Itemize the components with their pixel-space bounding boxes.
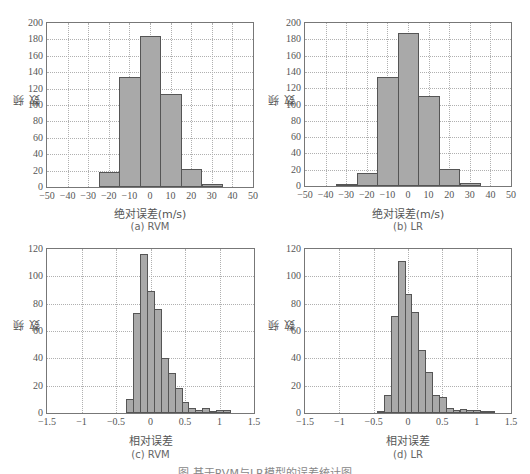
y-tick-label: 20 bbox=[17, 166, 43, 176]
y-tick-label: 20 bbox=[275, 165, 301, 175]
plot-area bbox=[46, 22, 254, 188]
histogram-bar bbox=[377, 77, 399, 186]
histogram-bar bbox=[398, 33, 420, 186]
y-tick-label: 80 bbox=[17, 116, 43, 126]
y-tick-label: 180 bbox=[275, 34, 301, 44]
histogram-bar bbox=[439, 169, 461, 186]
x-tick-label: 0.5 bbox=[427, 417, 457, 427]
x-tick-label: −0.5 bbox=[101, 417, 131, 427]
plot-area bbox=[46, 248, 255, 414]
histogram-bar bbox=[99, 172, 121, 187]
x-tick-label: 1.5 bbox=[239, 417, 269, 427]
subcaption: (d) LR bbox=[304, 449, 512, 460]
y-tick-label: 120 bbox=[17, 244, 43, 254]
y-tick-label: 120 bbox=[17, 84, 43, 94]
histogram-bar bbox=[336, 184, 358, 186]
x-tick-label: 1.5 bbox=[496, 417, 526, 427]
y-tick-label: 80 bbox=[275, 116, 301, 126]
histogram-bar bbox=[140, 36, 162, 187]
x-tick-label: −1 bbox=[324, 417, 354, 427]
y-tick-label: 20 bbox=[275, 381, 301, 391]
x-axis-label: 绝对误差(m/s) bbox=[46, 205, 254, 221]
y-tick-label: 40 bbox=[275, 148, 301, 158]
x-axis-label: 相对误差 bbox=[304, 432, 512, 448]
x-axis-label: 相对误差 bbox=[46, 432, 255, 448]
y-tick-label: 120 bbox=[275, 244, 301, 254]
x-axis-label: 绝对误差(m/s) bbox=[304, 205, 512, 221]
y-tick-label: 60 bbox=[17, 326, 43, 336]
histogram-bar bbox=[223, 410, 231, 413]
y-tick-label: 40 bbox=[17, 149, 43, 159]
y-tick-label: 140 bbox=[17, 67, 43, 77]
histogram-bar bbox=[357, 173, 379, 186]
plot-area bbox=[304, 248, 512, 414]
y-tick-label: 80 bbox=[275, 299, 301, 309]
y-tick-label: 100 bbox=[17, 271, 43, 281]
subcaption: (a) RVM bbox=[46, 221, 254, 232]
histogram-bar bbox=[181, 169, 203, 187]
x-tick-label: −1.5 bbox=[32, 417, 62, 427]
histogram-bar bbox=[418, 96, 440, 186]
y-tick-label: 160 bbox=[17, 51, 43, 61]
x-tick-label: 0 bbox=[393, 417, 423, 427]
y-tick-label: 180 bbox=[17, 34, 43, 44]
figure-caption: 图 基于RVM与LR模型的误差统计图 bbox=[0, 465, 530, 474]
y-tick-label: 120 bbox=[275, 83, 301, 93]
histogram-bar bbox=[487, 411, 495, 413]
y-tick-label: 200 bbox=[17, 18, 43, 28]
histogram-bar bbox=[202, 184, 224, 187]
x-tick-label: 0 bbox=[136, 417, 166, 427]
y-tick-label: 40 bbox=[17, 353, 43, 363]
y-tick-label: 100 bbox=[275, 100, 301, 110]
gridline-horizontal bbox=[305, 276, 511, 277]
x-tick-label: −1 bbox=[67, 417, 97, 427]
x-tick-label: −1.5 bbox=[290, 417, 320, 427]
x-tick-label: 50 bbox=[496, 190, 526, 200]
histogram-bar bbox=[460, 183, 482, 186]
y-tick-label: 20 bbox=[17, 381, 43, 391]
y-tick-label: 40 bbox=[275, 353, 301, 363]
y-tick-label: 60 bbox=[17, 133, 43, 143]
y-tick-label: 60 bbox=[275, 326, 301, 336]
y-tick-label: 160 bbox=[275, 51, 301, 61]
subcaption: (b) LR bbox=[304, 221, 512, 232]
histogram-bar bbox=[119, 77, 141, 187]
gridline-horizontal bbox=[47, 276, 254, 277]
histogram-bar bbox=[160, 94, 182, 187]
y-tick-label: 60 bbox=[275, 132, 301, 142]
x-tick-label: 1 bbox=[205, 417, 235, 427]
y-tick-label: 100 bbox=[17, 100, 43, 110]
y-tick-label: 80 bbox=[17, 299, 43, 309]
y-tick-label: 140 bbox=[275, 67, 301, 77]
x-tick-label: 1 bbox=[462, 417, 492, 427]
x-tick-label: −0.5 bbox=[359, 417, 389, 427]
subcaption: (c) RVM bbox=[46, 449, 255, 460]
x-tick-label: 50 bbox=[238, 191, 268, 201]
plot-area bbox=[304, 22, 512, 187]
y-tick-label: 100 bbox=[275, 271, 301, 281]
x-tick-label: 0.5 bbox=[170, 417, 200, 427]
y-tick-label: 200 bbox=[275, 18, 301, 28]
